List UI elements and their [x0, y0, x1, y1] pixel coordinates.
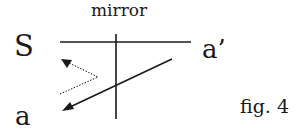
solid-arrowhead-icon: [62, 102, 74, 111]
image-point-label: a’: [202, 36, 226, 62]
source-label: S: [14, 32, 34, 61]
figure-caption: fig. 4: [240, 97, 289, 116]
mirror-label: mirror: [91, 2, 147, 19]
point-label: a: [15, 103, 31, 129]
dotted-arrow: [60, 59, 98, 94]
solid-arrow: [62, 59, 172, 111]
